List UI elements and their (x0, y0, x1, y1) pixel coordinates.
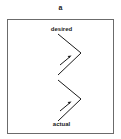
panel-frame: desired actual (7, 19, 114, 134)
upper-chevron-path (58, 34, 81, 75)
figure-caption: a (0, 3, 121, 12)
lower-chevron-path (58, 80, 81, 121)
actual-label: actual (8, 121, 115, 128)
trajectory-diagram (8, 20, 115, 135)
figure-root: a desired actual (0, 0, 121, 139)
